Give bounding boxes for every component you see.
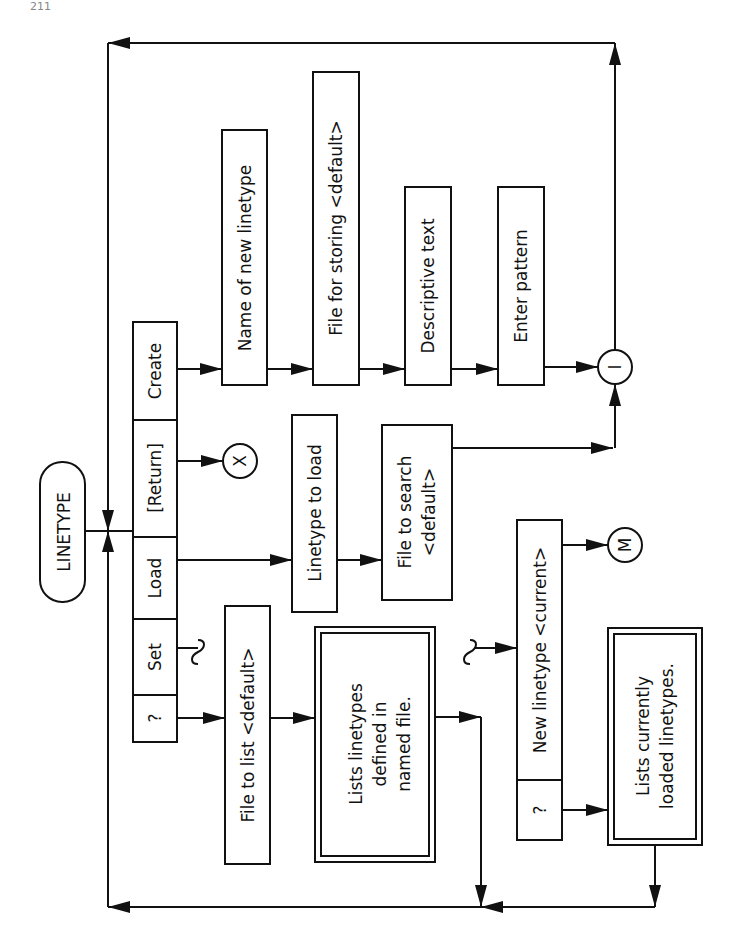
step-name-new-linetype: Name of new linetype xyxy=(235,165,255,352)
arrow-right-icon xyxy=(586,539,608,551)
linetype-flowchart: LINETYPE Create [Return] Load Set ? Name… xyxy=(0,0,738,942)
step-enter-pattern: Enter pattern xyxy=(511,229,531,343)
set-flow xyxy=(177,640,204,664)
arrow-right-icon xyxy=(201,455,223,467)
step-linetype-to-load: Linetype to load xyxy=(305,444,325,582)
arrow-right-icon xyxy=(576,361,598,373)
create-flow: Name of new linetype File for storing <d… xyxy=(177,72,632,385)
step-file-to-list: File to list <default> xyxy=(238,648,258,823)
start-node: LINETYPE xyxy=(40,462,133,602)
result-currently-loaded-1: Lists currently xyxy=(633,676,653,796)
continuation-squiggle-icon xyxy=(192,640,204,664)
arrow-right-icon xyxy=(200,363,222,375)
query-flow: File to list <default> Lists linetypes d… xyxy=(177,606,487,907)
arrow-right-icon xyxy=(270,554,292,566)
arrow-right-icon xyxy=(203,712,225,724)
arrow-right-icon xyxy=(383,363,405,375)
arrow-left-icon xyxy=(108,901,130,913)
connector-x-label: X xyxy=(230,455,250,467)
arrow-up-icon xyxy=(609,384,621,406)
option-query[interactable]: ? xyxy=(145,713,165,722)
arrow-right-icon xyxy=(293,712,315,724)
option-return[interactable]: [Return] xyxy=(145,443,165,513)
title-label: LINETYPE xyxy=(54,492,74,572)
arrow-up-icon xyxy=(609,43,621,65)
option-create[interactable]: Create xyxy=(145,343,165,400)
arrow-right-icon xyxy=(495,642,517,654)
set-query-option[interactable]: ? xyxy=(530,805,550,814)
arrow-down-icon xyxy=(102,510,114,531)
option-set[interactable]: Set xyxy=(145,643,165,671)
step-file-to-search-2: <default> xyxy=(419,468,439,556)
continuation-squiggle-icon xyxy=(464,640,476,664)
result-lists-linetypes-1: Lists linetypes xyxy=(346,683,366,805)
arrow-right-icon xyxy=(476,363,498,375)
arrow-right-icon xyxy=(586,804,608,816)
arrow-up-icon xyxy=(102,531,114,552)
result-lists-linetypes-3: named file. xyxy=(394,696,414,792)
step-file-for-storing: File for storing <default> xyxy=(326,120,346,336)
arrow-down-icon xyxy=(649,885,661,907)
arrow-right-icon xyxy=(591,442,613,454)
arrow-down-icon xyxy=(475,885,487,907)
arrow-right-icon xyxy=(459,711,481,723)
arrow-right-icon xyxy=(291,363,313,375)
set-subflow: New linetype <current> ? M Lists current… xyxy=(464,520,702,907)
option-load[interactable]: Load xyxy=(145,558,165,599)
step-file-to-search-1: File to search xyxy=(395,456,415,569)
return-flow: X xyxy=(177,444,257,478)
step-descriptive-text: Descriptive text xyxy=(418,218,438,353)
step-new-linetype: New linetype <current> xyxy=(530,547,550,753)
connector-i-label: I xyxy=(605,364,625,369)
option-menu: Create [Return] Load Set ? xyxy=(133,322,177,742)
result-currently-loaded-2: loaded linetypes. xyxy=(657,663,677,809)
arrow-right-icon xyxy=(360,554,382,566)
result-lists-linetypes-2: defined in xyxy=(370,702,390,787)
connector-m-label: M xyxy=(615,538,635,553)
arrow-left-icon xyxy=(481,901,503,913)
arrow-left-icon xyxy=(108,37,130,49)
